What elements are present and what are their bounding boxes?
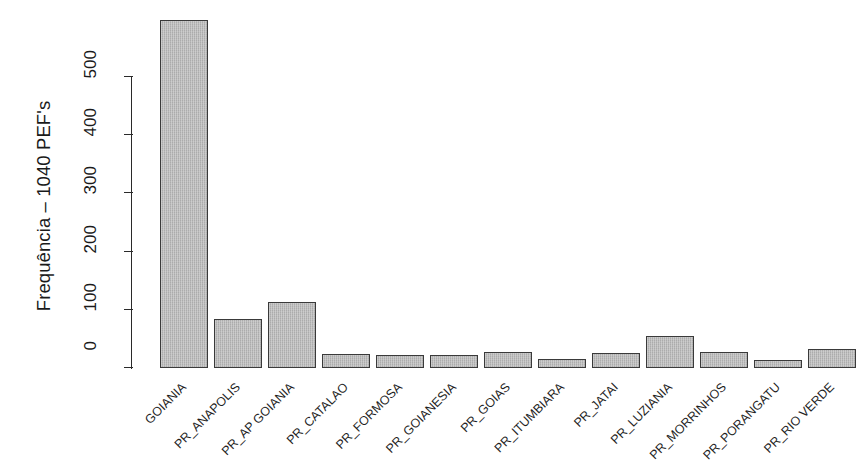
bar-chart: Frequência – 1040 PEF's 0100200300400500… (0, 0, 861, 468)
bar (808, 349, 856, 368)
bar (430, 355, 478, 368)
bar (214, 319, 262, 368)
bar (592, 353, 640, 368)
bar (160, 20, 208, 368)
bar (376, 355, 424, 368)
bar (268, 302, 316, 368)
bar (646, 336, 694, 368)
bar (322, 354, 370, 368)
bar (700, 352, 748, 368)
bar (754, 360, 802, 368)
bar (538, 359, 586, 368)
bar (484, 352, 532, 368)
